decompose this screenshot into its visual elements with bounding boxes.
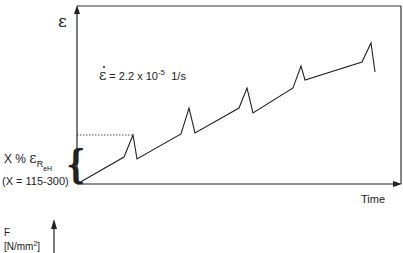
y-axis-label: ε [58, 11, 67, 31]
x-axis-label: Time [361, 193, 385, 205]
range-label: (X = 115-300) [2, 175, 69, 187]
strain-rate-unit: 1/s [171, 70, 186, 82]
strain-rate-value: = 2.2 x 10 [109, 70, 158, 82]
strain-rate-label: ε = 2.2 x 10-5 1/s [99, 67, 186, 83]
strain-time-diagram [0, 0, 403, 253]
force-unit-prefix: [N/mm [4, 241, 33, 252]
preload-label: X % εReH [4, 150, 52, 170]
strain-rate-exponent: -5 [158, 68, 165, 77]
preload-prefix: X % [4, 152, 26, 166]
force-unit-suffix: ] [37, 241, 40, 252]
preload-subscript-sub: eH [43, 165, 52, 172]
force-axis-arrow-icon [51, 219, 57, 229]
strain-rate-symbol: ε [99, 67, 106, 83]
force-symbol: F [4, 227, 40, 238]
force-unit: [N/mm2] [4, 238, 40, 252]
preload-symbol: ε [29, 150, 36, 166]
brace-icon: { [66, 142, 85, 186]
force-axis-label: F [N/mm2] [4, 227, 40, 252]
preload-subscript: ReH [37, 159, 52, 169]
strain-curve [77, 43, 375, 184]
